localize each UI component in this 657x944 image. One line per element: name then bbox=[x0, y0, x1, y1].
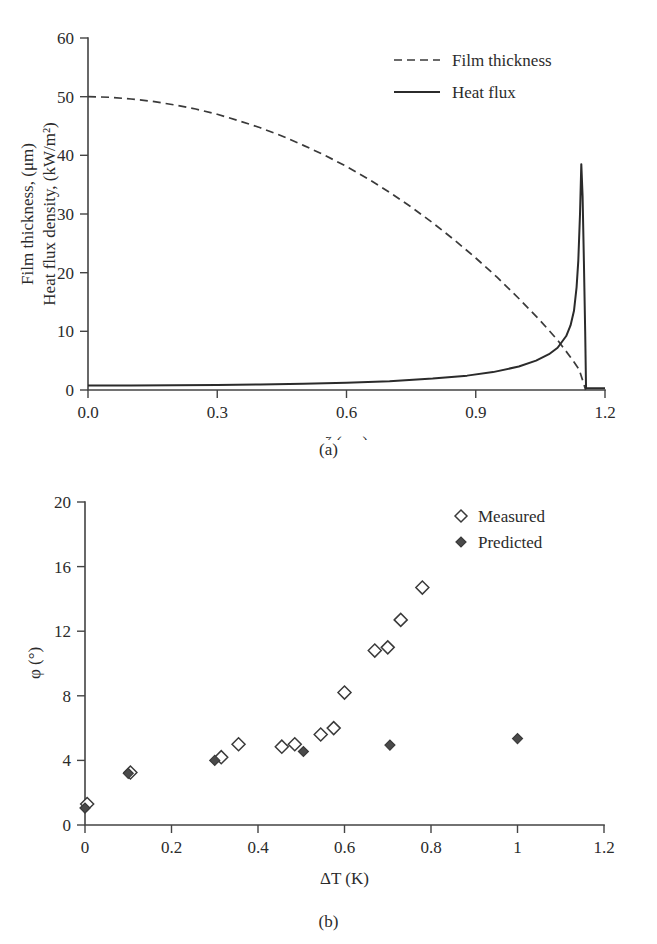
data-point-measured bbox=[275, 740, 288, 753]
data-point-measured bbox=[394, 613, 407, 626]
data-point-measured bbox=[416, 581, 429, 594]
chart-panel-a: 0 10 20 30 40 50 60 0.0 0.3 0.6 0.9 1.2 … bbox=[0, 0, 657, 472]
legend-label-film-thickness: Film thickness bbox=[452, 51, 552, 70]
y-tick-label: 0 bbox=[63, 816, 72, 835]
panel-b-caption: (b) bbox=[0, 912, 657, 932]
x-tick-label: 0.0 bbox=[77, 403, 98, 422]
legend-label-heat-flux: Heat flux bbox=[452, 83, 516, 102]
data-point-measured bbox=[232, 738, 245, 751]
y-tick-label: 60 bbox=[57, 29, 74, 48]
y-tick-label: 16 bbox=[54, 558, 71, 577]
chart-a-axes bbox=[80, 38, 605, 398]
x-tick-label: 1.2 bbox=[594, 403, 615, 422]
x-axis-ticks bbox=[85, 825, 604, 833]
axis-lines bbox=[88, 38, 605, 390]
x-axis-title: ΔT (K) bbox=[320, 869, 369, 888]
data-point-measured bbox=[327, 722, 340, 735]
y-tick-label: 30 bbox=[57, 205, 74, 224]
y-axis-title-line2: Heat flux density, (kW/m²) bbox=[40, 122, 59, 305]
y-axis-title-line1: Film thickness, (μm) bbox=[18, 143, 37, 285]
y-axis-tick-labels: 0 4 8 12 16 20 bbox=[54, 493, 72, 835]
x-axis-title: ζ (cm) bbox=[325, 433, 368, 440]
panel-a-caption: (a) bbox=[0, 440, 657, 460]
x-tick-label: 0.6 bbox=[334, 838, 355, 857]
data-point-predicted bbox=[385, 740, 395, 750]
legend-label-measured: Measured bbox=[478, 507, 546, 526]
y-axis-ticks bbox=[80, 38, 88, 390]
y-tick-label: 0 bbox=[66, 381, 75, 400]
y-tick-label: 10 bbox=[57, 322, 74, 341]
x-tick-label: 1 bbox=[513, 838, 522, 857]
x-axis-tick-labels: 0 0.2 0.4 0.6 0.8 1 1.2 bbox=[81, 838, 615, 857]
y-tick-label: 50 bbox=[57, 88, 74, 107]
x-tick-label: 0 bbox=[81, 838, 90, 857]
y-tick-label: 8 bbox=[63, 687, 72, 706]
y-axis-ticks bbox=[77, 502, 85, 825]
x-tick-label: 0.2 bbox=[161, 838, 182, 857]
data-point-predicted bbox=[513, 734, 523, 744]
data-point-measured bbox=[368, 644, 381, 657]
x-tick-label: 0.6 bbox=[336, 403, 357, 422]
data-point-measured bbox=[381, 641, 394, 654]
data-point-measured bbox=[338, 686, 351, 699]
data-point-measured bbox=[288, 738, 301, 751]
legend-marker-open-diamond-icon bbox=[455, 510, 467, 522]
data-point-predicted bbox=[298, 747, 308, 757]
series-heat-flux bbox=[88, 164, 605, 388]
x-tick-label: 0.4 bbox=[247, 838, 269, 857]
chart-a-legend: Film thickness Heat flux bbox=[394, 51, 552, 102]
y-tick-label: 12 bbox=[54, 622, 71, 641]
x-tick-label: 0.3 bbox=[207, 403, 228, 422]
scatter-points-group bbox=[80, 581, 523, 813]
x-tick-label: 0.8 bbox=[420, 838, 441, 857]
x-tick-label: 1.2 bbox=[593, 838, 614, 857]
y-tick-label: 40 bbox=[57, 146, 74, 165]
y-tick-label: 20 bbox=[54, 493, 71, 512]
y-axis-title: φ (°) bbox=[25, 647, 44, 679]
y-tick-label: 4 bbox=[63, 751, 72, 770]
x-axis-ticks bbox=[88, 390, 605, 398]
figure-container: 0 10 20 30 40 50 60 0.0 0.3 0.6 0.9 1.2 … bbox=[0, 0, 657, 944]
series-film-thickness bbox=[88, 97, 586, 390]
legend-marker-filled-diamond-icon bbox=[456, 537, 466, 547]
chart-b-svg: 0 4 8 12 16 20 0 0.2 0.4 0.6 0.8 1 1.2 Δ… bbox=[0, 472, 657, 912]
x-tick-label: 0.9 bbox=[465, 403, 486, 422]
chart-b-legend: Measured Predicted bbox=[455, 507, 546, 552]
x-axis-tick-labels: 0.0 0.3 0.6 0.9 1.2 bbox=[77, 403, 615, 422]
chart-a-svg: 0 10 20 30 40 50 60 0.0 0.3 0.6 0.9 1.2 … bbox=[0, 0, 657, 440]
chart-panel-b: 0 4 8 12 16 20 0 0.2 0.4 0.6 0.8 1 1.2 Δ… bbox=[0, 472, 657, 944]
legend-label-predicted: Predicted bbox=[478, 533, 543, 552]
y-tick-label: 20 bbox=[57, 264, 74, 283]
data-point-measured bbox=[314, 728, 327, 741]
y-axis-tick-labels: 0 10 20 30 40 50 60 bbox=[57, 29, 74, 400]
